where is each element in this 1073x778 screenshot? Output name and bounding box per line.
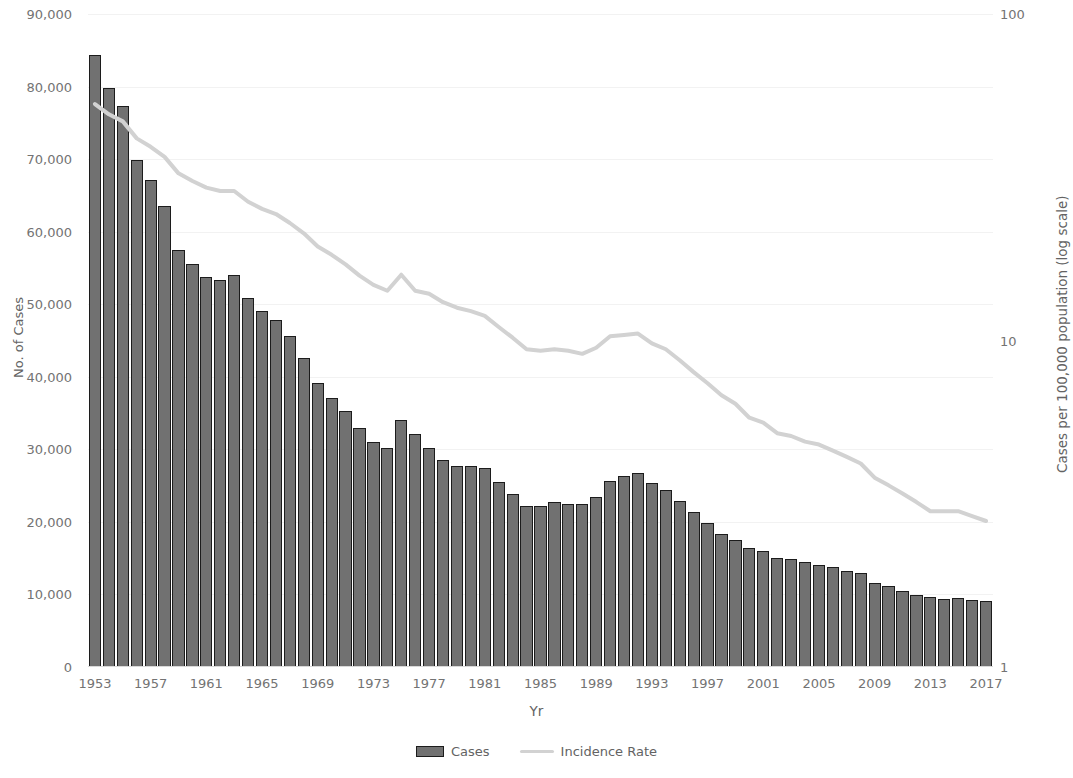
x-axis-title: Yr — [0, 703, 1073, 719]
y-axis-tick-labels: 90,00080,00070,00060,00050,00040,00030,0… — [10, 0, 72, 778]
x-axis-tick-label: 1977 — [413, 676, 446, 691]
plot-area — [88, 14, 993, 667]
x-axis-tick-label: 2005 — [802, 676, 835, 691]
x-axis-tick-label: 2013 — [914, 676, 947, 691]
legend-line-swatch-icon — [520, 750, 554, 753]
y-axis-tick-label: 10,000 — [10, 587, 72, 602]
y-axis-tick-label: 50,000 — [10, 297, 72, 312]
legend-item[interactable]: Cases — [416, 744, 490, 759]
legend-bar-swatch-icon — [416, 746, 444, 757]
y-axis-tick-label: 60,000 — [10, 224, 72, 239]
y-axis-tick-label: 40,000 — [10, 369, 72, 384]
y-axis-tick-label: 0 — [10, 660, 72, 675]
x-axis-tick-label: 1997 — [691, 676, 724, 691]
secondary-y-axis-tick-label: 1 — [1000, 660, 1060, 675]
x-axis-tick-label: 1953 — [78, 676, 111, 691]
secondary-y-axis-tick-label: 100 — [1000, 7, 1060, 22]
x-axis-tick-label: 1957 — [134, 676, 167, 691]
y-axis-tick-label: 80,000 — [10, 79, 72, 94]
incidence-rate-polyline — [95, 104, 986, 521]
secondary-y-axis-tick-label: 10 — [1000, 333, 1060, 348]
chart-legend: CasesIncidence Rate — [0, 744, 1073, 759]
x-axis-tick-label: 2009 — [858, 676, 891, 691]
legend-item-label: Incidence Rate — [561, 744, 657, 759]
x-axis-tick-label: 1961 — [190, 676, 223, 691]
x-axis-tick-label: 1985 — [524, 676, 557, 691]
line-series-incidence-rate — [88, 14, 993, 667]
secondary-y-axis-tick-labels: 100101 — [1000, 0, 1060, 778]
legend-item-label: Cases — [451, 744, 490, 759]
x-axis-tick-label: 2001 — [747, 676, 780, 691]
x-axis-tick-label: 1989 — [580, 676, 613, 691]
x-axis-tick-label: 2017 — [969, 676, 1002, 691]
y-axis-tick-label: 90,000 — [10, 7, 72, 22]
y-axis-tick-label: 20,000 — [10, 514, 72, 529]
y-axis-tick-label: 30,000 — [10, 442, 72, 457]
x-axis-tick-label: 1973 — [357, 676, 390, 691]
legend-item[interactable]: Incidence Rate — [520, 744, 657, 759]
chart-container: No. of Cases Cases per 100,000 populatio… — [0, 0, 1073, 778]
x-axis-tick-label: 1981 — [468, 676, 501, 691]
y-axis-tick-label: 70,000 — [10, 152, 72, 167]
x-axis-line — [88, 666, 993, 667]
incidence-rate-path-svg — [88, 14, 993, 667]
x-axis-tick-label: 1965 — [245, 676, 278, 691]
x-axis-tick-label: 1993 — [635, 676, 668, 691]
x-axis-tick-label: 1969 — [301, 676, 334, 691]
